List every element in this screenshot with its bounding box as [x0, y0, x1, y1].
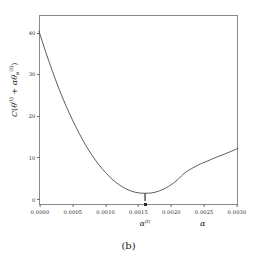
- x-tick-label: 0.0030: [228, 209, 247, 215]
- y-axis-title: C(θ(t) + αθα(t)): [10, 103, 19, 117]
- y-tick-label: 40: [29, 30, 37, 36]
- y-title-theta2: θ: [10, 75, 19, 80]
- figure-caption: (b): [0, 240, 257, 251]
- y-title-theta2-sub: α: [14, 72, 20, 75]
- y-title-close: ): [10, 63, 19, 66]
- y-tick-label: 20: [29, 113, 37, 119]
- x-tick-1: 0.0005: [63, 204, 82, 215]
- x-tick-label: 0.0025: [195, 209, 214, 215]
- x-tick-4: 0.0020: [162, 204, 181, 215]
- x-tick-0: 0.0000: [31, 204, 50, 215]
- cost-curve-path: [39, 31, 238, 193]
- alpha-t-annotation: α(t): [140, 219, 151, 228]
- figure-panel: 40 30 20 10 0 0.0000 0.0005: [0, 0, 257, 267]
- alpha-t-axis-marker: [144, 203, 147, 206]
- cost-curve-plot: [39, 15, 238, 205]
- y-title-c: C: [10, 111, 19, 117]
- y-tick-label: 10: [29, 155, 37, 161]
- x-tick-label: 0.0010: [96, 209, 115, 215]
- x-tick-6: 0.0030: [228, 204, 247, 215]
- x-tick-label: 0.0005: [63, 209, 82, 215]
- alpha-t-superscript: (t): [145, 219, 151, 224]
- x-tick-5: 0.0025: [195, 204, 214, 215]
- x-axis-title: α: [200, 219, 205, 228]
- y-title-plus: +: [10, 85, 19, 97]
- x-tick-label: 0.0000: [31, 209, 50, 215]
- y-title-theta-sup: (t): [8, 97, 14, 103]
- y-title-alpha: α: [10, 80, 19, 85]
- x-tick-label: 0.0015: [129, 209, 148, 215]
- y-tick-label: 30: [29, 71, 37, 77]
- y-title-open: (: [10, 108, 19, 111]
- x-tick-label: 0.0020: [162, 209, 181, 215]
- x-tick-2: 0.0010: [96, 204, 115, 215]
- y-title-theta: θ: [10, 103, 19, 108]
- y-title-theta2-sup: (t): [8, 66, 14, 72]
